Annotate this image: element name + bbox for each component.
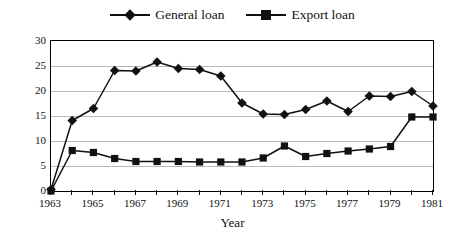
x-tick-mark xyxy=(390,190,391,195)
x-tick-mark xyxy=(114,190,115,195)
x-tick-label: 1965 xyxy=(70,198,114,209)
series-layer xyxy=(45,35,439,197)
legend-label-general-loan: General loan xyxy=(155,8,224,22)
data-point-square xyxy=(132,158,139,165)
data-point-square xyxy=(154,158,161,165)
x-tick-label: 1967 xyxy=(113,198,157,209)
line-chart: General loan Export loan 051015202530 19… xyxy=(0,0,465,241)
x-tick-mark xyxy=(241,190,242,195)
data-point-square xyxy=(408,113,415,120)
legend-marker-diamond-icon xyxy=(110,9,150,21)
x-tick-mark xyxy=(156,190,157,195)
x-tick-mark xyxy=(177,190,178,195)
data-point-square xyxy=(302,153,309,160)
data-point-diamond xyxy=(174,64,184,74)
data-point-square xyxy=(69,147,76,154)
x-tick-mark xyxy=(326,190,327,195)
data-point-square xyxy=(429,113,436,120)
x-tick-mark xyxy=(305,190,306,195)
data-point-square xyxy=(345,147,352,154)
x-tick-label: 1973 xyxy=(240,198,284,209)
data-point-diamond xyxy=(386,92,396,102)
legend-marker-square-icon xyxy=(246,9,286,21)
x-tick-mark xyxy=(262,190,263,195)
data-point-square xyxy=(281,142,288,149)
data-point-diamond xyxy=(280,110,290,120)
x-tick-mark xyxy=(283,190,284,195)
x-tick-mark xyxy=(50,190,51,195)
data-point-diamond xyxy=(152,57,162,67)
x-axis-title: Year xyxy=(0,216,465,229)
data-point-diamond xyxy=(67,116,77,126)
x-tick-label: 1981 xyxy=(410,198,454,209)
y-tick-label: 5 xyxy=(24,160,46,171)
data-point-diamond xyxy=(428,101,438,111)
chart-legend: General loan Export loan xyxy=(0,8,465,22)
y-tick-label: 0 xyxy=(24,185,46,196)
y-axis-tick-labels: 051015202530 xyxy=(20,40,46,190)
x-tick-mark xyxy=(368,190,369,195)
data-point-square xyxy=(238,158,245,165)
data-point-diamond xyxy=(301,105,311,115)
x-tick-mark xyxy=(92,190,93,195)
x-tick-label: 1975 xyxy=(283,198,327,209)
x-tick-label: 1963 xyxy=(28,198,72,209)
x-axis-tick-labels: 1963196519671969197119731975197719791981 xyxy=(50,198,432,212)
x-tick-mark xyxy=(199,190,200,195)
x-tick-mark xyxy=(71,190,72,195)
x-tick-label: 1969 xyxy=(155,198,199,209)
x-tick-label: 1977 xyxy=(325,198,369,209)
series-line xyxy=(51,117,433,191)
series-export-loan xyxy=(47,113,436,194)
data-point-diamond xyxy=(195,65,205,75)
x-axis-tick-marks xyxy=(50,190,432,196)
y-tick-label: 30 xyxy=(24,35,46,46)
data-point-square xyxy=(366,145,373,152)
y-tick-label: 25 xyxy=(24,60,46,71)
y-tick-label: 15 xyxy=(24,110,46,121)
y-tick-label: 10 xyxy=(24,135,46,146)
data-point-diamond xyxy=(322,96,332,106)
data-point-diamond xyxy=(258,109,268,119)
x-tick-label: 1979 xyxy=(368,198,412,209)
x-tick-label: 1971 xyxy=(198,198,242,209)
y-tick-label: 20 xyxy=(24,85,46,96)
data-point-square xyxy=(217,158,224,165)
data-point-square xyxy=(323,150,330,157)
data-point-diamond xyxy=(89,104,99,114)
x-tick-mark xyxy=(411,190,412,195)
series-general-loan xyxy=(46,57,438,194)
data-point-square xyxy=(196,158,203,165)
legend-label-export-loan: Export loan xyxy=(291,8,354,22)
data-point-diamond xyxy=(110,66,120,76)
series-line xyxy=(51,62,433,190)
x-tick-mark xyxy=(135,190,136,195)
legend-entry-general-loan: General loan xyxy=(110,8,224,22)
x-tick-mark xyxy=(347,190,348,195)
data-point-square xyxy=(175,158,182,165)
data-point-square xyxy=(90,149,97,156)
data-point-square xyxy=(387,143,394,150)
x-tick-mark xyxy=(432,190,433,195)
data-point-square xyxy=(111,155,118,162)
plot-area xyxy=(50,40,434,192)
data-point-diamond xyxy=(131,66,141,76)
legend-entry-export-loan: Export loan xyxy=(246,8,354,22)
data-point-diamond xyxy=(407,87,417,97)
data-point-square xyxy=(260,154,267,161)
x-tick-mark xyxy=(220,190,221,195)
